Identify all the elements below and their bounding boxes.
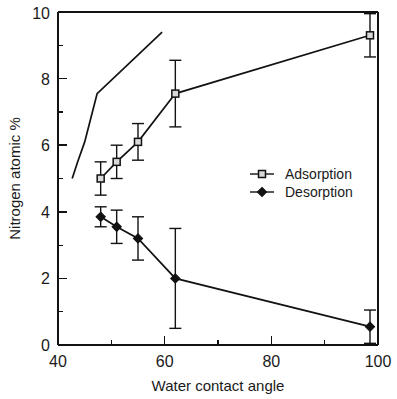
x-tick-label: 80: [262, 353, 280, 370]
chart-figure: 0 2 4 6 8 10 40 60 80 100 Water contact …: [0, 0, 397, 399]
data-point: [113, 158, 120, 165]
x-tick-labels: 40 60 80 100: [49, 353, 391, 370]
data-point: [172, 90, 179, 97]
x-tick-label: 40: [49, 353, 67, 370]
chart-legend: Adsorption Desorption: [250, 166, 353, 200]
y-tick-label: 10: [32, 5, 50, 22]
data-point: [366, 322, 375, 331]
y-tick-labels: 0 2 4 6 8 10: [32, 5, 50, 355]
legend-marker-open-square-icon: [259, 171, 266, 178]
series-desorption: [95, 207, 376, 344]
legend-label-adsorption: Adsorption: [285, 166, 352, 182]
y-tick-label: 6: [41, 137, 50, 154]
data-point: [97, 175, 104, 182]
x-tick-label: 100: [365, 353, 392, 370]
data-point: [135, 138, 142, 145]
legend-label-desorption: Desorption: [285, 184, 353, 200]
x-axis-title: Water contact angle: [152, 377, 285, 394]
legend-entry-desorption[interactable]: Desorption: [250, 184, 353, 200]
y-tick-label: 4: [41, 204, 50, 221]
legend-marker-filled-diamond-icon: [258, 188, 267, 197]
x-tick-label: 60: [156, 353, 174, 370]
y-tick-label: 0: [41, 337, 50, 354]
nitrogen-vs-contact-angle-chart: 0 2 4 6 8 10 40 60 80 100 Water contact …: [0, 0, 397, 399]
y-tick-label: 2: [41, 270, 50, 287]
desorption-polyline: [101, 217, 370, 327]
y-tick-label: 8: [41, 71, 50, 88]
legend-entry-adsorption[interactable]: Adsorption: [250, 166, 352, 182]
desorption-error-bars: [95, 207, 376, 344]
y-axis-title: Nitrogen atomic %: [6, 117, 23, 240]
data-point: [367, 32, 374, 39]
data-point: [96, 212, 105, 221]
adsorption-polyline: [101, 35, 370, 178]
data-point: [112, 222, 121, 231]
